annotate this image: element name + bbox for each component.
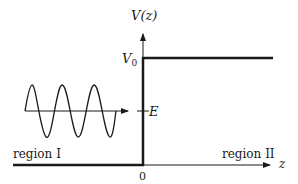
z-axis-label: z — [278, 157, 286, 171]
potential-step-diagram: V(z) V0 E 0 z region I region II — [0, 0, 298, 184]
origin-label: 0 — [139, 170, 146, 183]
region-ii-label: region II — [222, 147, 275, 161]
incident-wave — [25, 85, 116, 137]
v0-label: V0 — [122, 51, 137, 68]
v-axis-label: V(z) — [131, 8, 157, 23]
region-i-label: region I — [13, 147, 61, 161]
energy-label: E — [148, 104, 159, 119]
